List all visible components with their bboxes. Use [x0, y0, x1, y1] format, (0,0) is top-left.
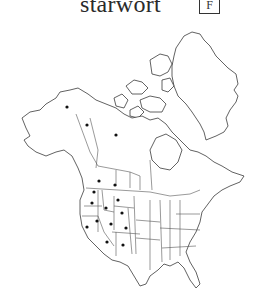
dot-northwest-territories [114, 133, 117, 136]
distribution-map [0, 0, 271, 291]
greenland-shape [172, 32, 238, 140]
dot-british-columbia [97, 179, 100, 182]
dot-arizona [105, 240, 108, 243]
dot-montana [116, 198, 119, 201]
dot-utah [109, 222, 112, 225]
dot-colorado [124, 226, 127, 229]
dot-nevada [95, 219, 98, 222]
dot-alaska [65, 105, 68, 108]
dot-new-mexico [121, 243, 124, 246]
dot-idaho [104, 206, 107, 209]
dot-washington [92, 190, 95, 193]
dot-alberta [113, 183, 116, 186]
dot-oregon [90, 201, 93, 204]
dot-wyoming [120, 211, 123, 214]
arctic-islands-shape [114, 54, 174, 118]
dot-yukon [85, 123, 88, 126]
dot-california [85, 225, 88, 228]
